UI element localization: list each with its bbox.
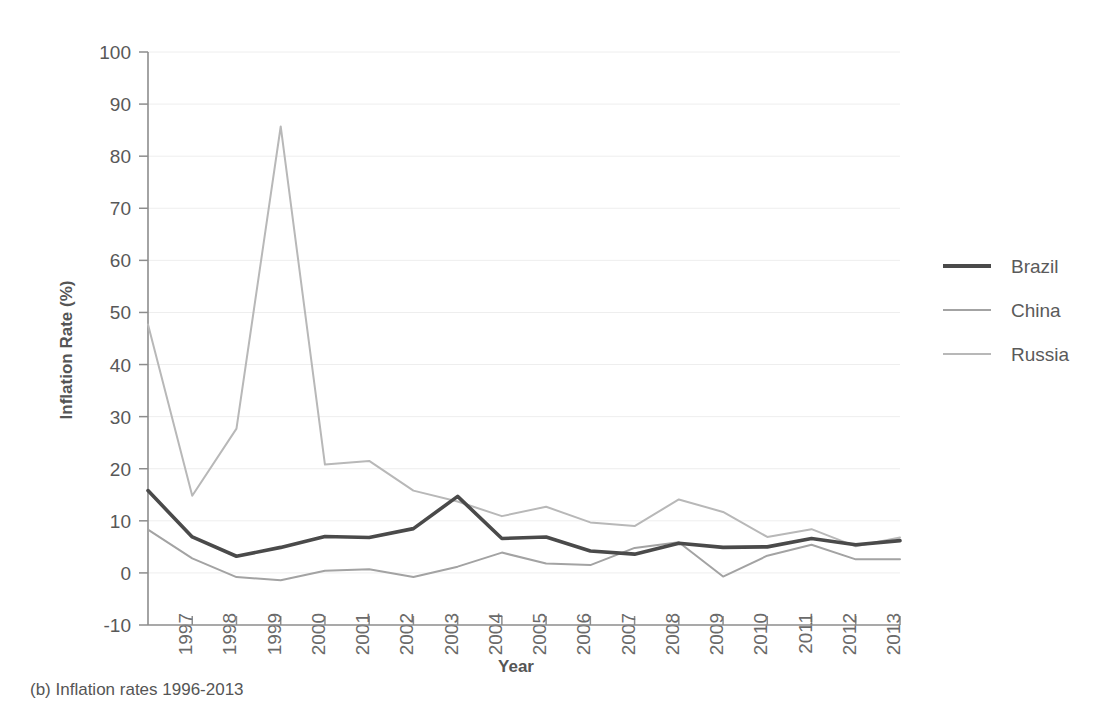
x-tick-label: 2003 [441, 613, 462, 655]
y-tick-label: 20 [110, 459, 131, 480]
y-tick-label: 90 [110, 94, 131, 115]
gridlines [148, 52, 900, 573]
x-tick-label: 2007 [618, 613, 639, 655]
y-tick-label: 60 [110, 250, 131, 271]
y-tick-label: 10 [110, 511, 131, 532]
x-tick-label: 2002 [396, 613, 417, 655]
y-tick-label: 40 [110, 355, 131, 376]
y-tick-label: 100 [99, 42, 131, 63]
y-tick-label: 80 [110, 146, 131, 167]
legend-label-brazil: Brazil [1011, 256, 1059, 277]
data-series-group [148, 126, 900, 580]
inflation-rate-line-chart: 1009080706050403020100-10 19971998199920… [0, 0, 1107, 713]
y-axis-ticks: 1009080706050403020100-10 [99, 42, 148, 636]
y-tick-label: 30 [110, 407, 131, 428]
figure-caption: (b) Inflation rates 1996-2013 [30, 680, 244, 700]
x-tick-label: 2006 [573, 613, 594, 655]
y-tick-label: 50 [110, 302, 131, 323]
x-tick-label: 2010 [750, 613, 771, 655]
legend-label-russia: Russia [1011, 344, 1070, 365]
x-tick-label: 2000 [308, 613, 329, 655]
y-tick-label: 0 [120, 563, 131, 584]
x-tick-label: 2011 [795, 613, 816, 654]
x-tick-label: 2009 [706, 613, 727, 655]
x-axis-title: Year [498, 657, 534, 676]
x-tick-label: 1998 [219, 613, 240, 655]
series-line-brazil [148, 491, 900, 557]
figure-container: 1009080706050403020100-10 19971998199920… [0, 0, 1107, 713]
x-tick-label: 2001 [352, 613, 373, 655]
x-tick-label: 2012 [839, 613, 860, 655]
y-tick-label: 70 [110, 198, 131, 219]
x-tick-label: 2005 [529, 613, 550, 655]
y-tick-label: -10 [104, 615, 131, 636]
x-axis-ticks: 1997199819992000200120022003200420052006… [175, 613, 904, 656]
x-tick-label: 2004 [485, 613, 506, 656]
x-tick-label: 1997 [175, 613, 196, 655]
chart-legend: BrazilChinaRussia [943, 256, 1070, 365]
x-tick-label: 2013 [883, 613, 904, 655]
caption-label: (b) Inflation rates 1996-2013 [30, 680, 244, 699]
x-tick-label: 1999 [264, 613, 285, 655]
series-line-russia [148, 126, 900, 546]
legend-label-china: China [1011, 300, 1061, 321]
y-axis-title: Inflation Rate (%) [57, 281, 76, 420]
x-tick-label: 2008 [662, 613, 683, 655]
